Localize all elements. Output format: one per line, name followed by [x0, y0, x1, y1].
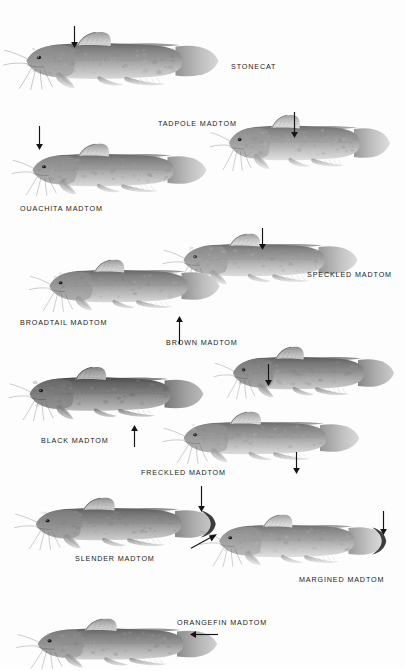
fish-illustration-broadtail-madtom: [42, 258, 228, 314]
fish-illustration-stonecat: [18, 30, 228, 92]
species-label-stonecat: STONECAT: [231, 62, 276, 71]
species-label-orangefin-madtom: ORANGEFIN MADTOM: [177, 618, 267, 627]
fish-illustration-margined-madtom: [212, 513, 394, 569]
arrow-caudal-margin: [379, 511, 388, 535]
species-label-slender-madtom: SLENDER MADTOM: [75, 554, 155, 563]
species-label-margined-madtom: MARGINED MADTOM: [299, 575, 384, 584]
fish-illustration-brown-madtom: [226, 345, 402, 401]
species-label-tadpole-madtom: TADPOLE MADTOM: [158, 119, 237, 128]
arrow-caudal-margin: [197, 486, 206, 512]
arrow-pelvic-fin: [130, 425, 139, 447]
species-label-brown-madtom: BROWN MADTOM: [166, 338, 238, 347]
arrow-dorsal-fin: [70, 26, 79, 48]
species-label-black-madtom: BLACK MADTOM: [41, 436, 109, 445]
arrow-barbel: [191, 534, 217, 560]
arrow-anal-base: [292, 452, 301, 474]
species-label-broadtail-madtom: BROADTAIL MADTOM: [20, 318, 107, 327]
species-label-speckled-madtom: SPECKLED MADTOM: [307, 270, 392, 279]
fish-illustration-freckled-madtom: [176, 410, 368, 466]
fish-illustration-ouachita-madtom: [25, 142, 215, 198]
species-label-ouachita-madtom: OUACHITA MADTOM: [20, 204, 103, 213]
arrow-nape: [35, 126, 44, 150]
arrow-anal-fin: [264, 364, 273, 386]
fish-illustration-tadpole-madtom: [222, 113, 398, 173]
species-label-freckled-madtom: FRECKLED MADTOM: [141, 468, 226, 477]
arrow-dorsum: [258, 228, 267, 250]
arrow-lateral-line: [290, 112, 299, 138]
arrow-caudal-fin: [190, 630, 218, 639]
